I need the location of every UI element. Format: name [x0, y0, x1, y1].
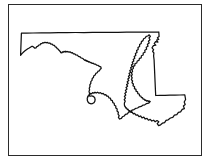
- figure-root: [0, 0, 211, 166]
- maryland-outline-path: [21, 32, 186, 126]
- state-outline-map: [0, 0, 211, 166]
